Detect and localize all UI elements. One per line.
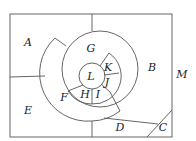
- label-m: M: [175, 68, 188, 81]
- label-l: L: [86, 70, 94, 83]
- label-h: H: [79, 88, 90, 101]
- label-c: C: [159, 121, 168, 134]
- label-k: K: [103, 61, 113, 74]
- divider-b-d: [104, 118, 158, 124]
- label-f: F: [59, 91, 68, 104]
- label-e: E: [23, 104, 32, 117]
- label-d: D: [115, 121, 125, 134]
- spiral-start-cap: [55, 38, 66, 46]
- label-j: J: [103, 76, 110, 89]
- label-i: I: [95, 88, 101, 101]
- spiral-end-cap: [110, 92, 120, 111]
- label-g: G: [87, 42, 96, 55]
- label-a: A: [23, 36, 32, 49]
- label-b: B: [147, 61, 156, 74]
- region-diagram: A B C D E F G H I J K L M: [0, 0, 196, 141]
